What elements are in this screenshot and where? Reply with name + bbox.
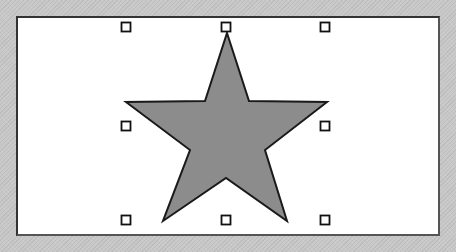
- handle-top-center[interactable]: [222, 23, 231, 32]
- handle-bottom-center[interactable]: [222, 216, 231, 225]
- handle-middle-left[interactable]: [122, 122, 131, 131]
- star-shape[interactable]: [126, 33, 327, 221]
- handle-top-right[interactable]: [321, 23, 330, 32]
- handle-middle-right[interactable]: [321, 122, 330, 131]
- handle-top-left[interactable]: [122, 23, 131, 32]
- drawing-layer: [0, 0, 456, 252]
- handle-bottom-right[interactable]: [321, 216, 330, 225]
- handle-bottom-left[interactable]: [122, 216, 131, 225]
